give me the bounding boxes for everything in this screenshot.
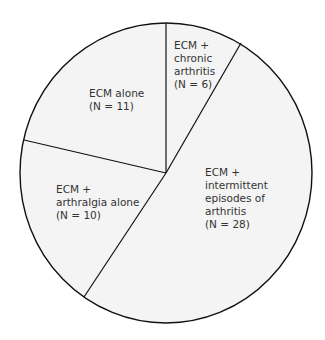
label-line: arthritis [174, 65, 215, 78]
slice-label-arthralgia: ECM + arthralgia alone (N = 10) [56, 183, 139, 222]
label-line: chronic [174, 52, 215, 65]
slice-label-intermittent: ECM + intermittent episodes of arthritis… [205, 166, 268, 231]
label-line: ECM + [56, 183, 139, 196]
label-line: ECM alone [89, 87, 144, 100]
label-line: intermittent [205, 179, 268, 192]
label-line: (N = 6) [174, 78, 215, 91]
label-line: ECM + [205, 166, 268, 179]
label-line: (N = 10) [56, 209, 139, 222]
label-line: arthritis [205, 205, 268, 218]
label-line: ECM + [174, 39, 215, 52]
label-line: arthralgia alone [56, 196, 139, 209]
slice-label-ecm-alone: ECM alone (N = 11) [89, 87, 144, 113]
pie-chart [0, 0, 325, 340]
slice-label-chronic: ECM + chronic arthritis (N = 6) [174, 39, 215, 91]
label-line: (N = 11) [89, 100, 144, 113]
label-line: (N = 28) [205, 218, 268, 231]
label-line: episodes of [205, 192, 268, 205]
